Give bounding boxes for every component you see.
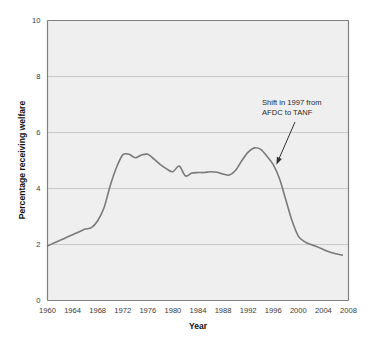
x-tick-label-1960: 1960: [39, 306, 56, 315]
plot-area-background: [48, 21, 349, 301]
annotation-line-1: Shift in 1997 from: [262, 98, 322, 107]
y-tick-label-10: 10: [32, 16, 40, 25]
chart-svg: 0246810 19601964196819721976198019841988…: [0, 0, 370, 342]
y-tick-label-2: 2: [36, 240, 40, 249]
x-tick-label-1964: 1964: [64, 306, 81, 315]
x-tick-label-1992: 1992: [240, 306, 257, 315]
x-tick-label-2000: 2000: [290, 306, 307, 315]
y-tick-label-8: 8: [36, 72, 40, 81]
x-tick-label-1980: 1980: [164, 306, 181, 315]
x-tick-label-1984: 1984: [190, 306, 207, 315]
y-tick-label-0: 0: [36, 296, 40, 305]
x-tick-label-2004: 2004: [315, 306, 332, 315]
x-tick-label-1968: 1968: [89, 306, 106, 315]
x-axis-title: Year: [189, 321, 208, 331]
x-tick-label-1988: 1988: [215, 306, 232, 315]
y-axis-title: Percentage receiving welfare: [17, 101, 27, 220]
welfare-line-chart: 0246810 19601964196819721976198019841988…: [0, 0, 370, 342]
y-tick-label-4: 4: [36, 184, 40, 193]
annotation-line-2: AFDC to TANF: [262, 108, 313, 117]
x-tick-label-1972: 1972: [114, 306, 131, 315]
y-tick-label-6: 6: [36, 128, 40, 137]
x-tick-label-1976: 1976: [139, 306, 156, 315]
x-tick-label-2008: 2008: [340, 306, 357, 315]
x-tick-label-1996: 1996: [265, 306, 282, 315]
